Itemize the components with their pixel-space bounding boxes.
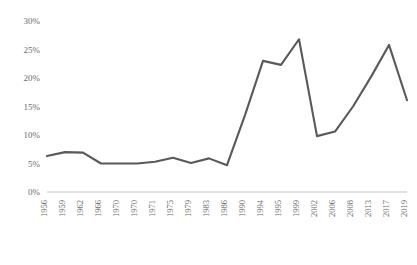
x-axis-tick-label: 2008 (345, 200, 355, 217)
x-axis-tick-label: 1990 (237, 200, 247, 217)
x-axis-tick-label: 1970 (129, 200, 139, 217)
x-axis-tick-label: 1971 (147, 200, 157, 217)
x-axis-tick-label: 2013 (363, 200, 373, 217)
y-axis-tick-label: 0% (28, 187, 41, 197)
chart-plot-area: 0%5%10%15%20%25%30% 19561959196219661970… (0, 0, 417, 265)
x-axis-tick-label: 2002 (309, 200, 319, 217)
x-axis-tick-label: 2019 (399, 200, 409, 217)
x-axis-tick-label: 1986 (219, 200, 229, 217)
y-axis-tick-label: 15% (24, 102, 41, 112)
data-line-series-1 (47, 39, 407, 165)
x-axis-tick-labels: 1956195919621966197019701971197519791983… (39, 199, 409, 217)
y-axis-tick-label: 30% (24, 16, 41, 26)
y-axis-tick-label: 5% (28, 159, 41, 169)
x-axis-tick-label: 1959 (57, 200, 67, 217)
y-axis-tick-label: 20% (24, 73, 41, 83)
x-axis-tick-label: 1966 (93, 200, 103, 217)
x-axis-tick-label: 1995 (273, 200, 283, 217)
data-series-group (47, 39, 407, 165)
x-axis-tick-label: 1979 (183, 200, 193, 217)
x-axis-tick-label: 1956 (39, 200, 49, 217)
x-axis-tick-label: 1975 (165, 200, 175, 217)
x-axis-tick-label: 2006 (327, 200, 337, 217)
y-axis-tick-label: 25% (24, 45, 41, 55)
x-axis-tick-label: 1970 (111, 200, 121, 217)
y-axis-tick-labels: 0%5%10%15%20%25%30% (24, 16, 41, 197)
x-axis-tick-label: 1983 (201, 200, 211, 217)
x-axis-tick-label: 1962 (75, 200, 85, 217)
y-axis-tick-label: 10% (24, 130, 41, 140)
x-axis-tick-label: 1994 (255, 199, 265, 217)
x-axis-tick-label: 2017 (381, 200, 391, 217)
x-axis-tick-label: 1999 (291, 200, 301, 217)
line-chart: 0%5%10%15%20%25%30% 19561959196219661970… (0, 0, 417, 265)
